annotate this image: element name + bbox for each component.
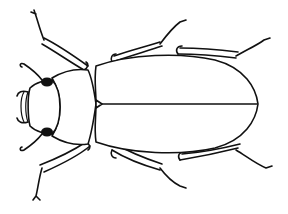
beetle-drawing	[0, 0, 288, 214]
leg-hind-left	[177, 38, 270, 58]
beetle-head	[28, 80, 60, 134]
antenna	[20, 63, 42, 80]
leg-femur	[42, 38, 88, 70]
beetle-illustration: Line drawing of a beetle, dorsal view	[0, 0, 288, 214]
beetle-clypeus	[21, 92, 24, 122]
leg-tarsus	[160, 20, 186, 44]
antenna	[20, 134, 42, 151]
leg-tarsus	[160, 168, 186, 188]
eye-icon	[41, 78, 53, 87]
leg-femur	[40, 142, 90, 172]
leg-front-left	[31, 10, 88, 70]
leg-tarsus	[33, 168, 42, 200]
leg-front-right	[33, 142, 90, 200]
leg-tarsus	[31, 10, 44, 40]
eye-icon	[41, 128, 53, 137]
leg-tarsus	[236, 150, 272, 168]
leg-tarsus	[236, 38, 270, 56]
leg-joint	[177, 46, 182, 54]
